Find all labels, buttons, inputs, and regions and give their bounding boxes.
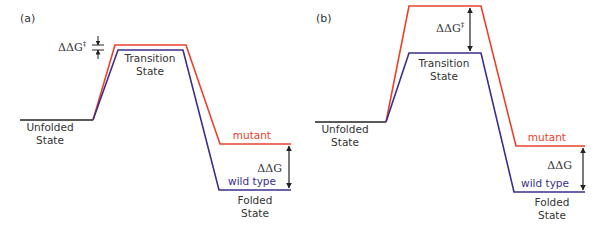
unfolded-state-label-a-2: State — [36, 134, 64, 146]
folded-state-label-a-2: State — [241, 207, 269, 219]
panel-b: (b) ΔΔG‡ Transition State Unfolded State… — [315, 6, 585, 221]
panel-a-label: (a) — [20, 12, 35, 25]
panel-b-label: (b) — [316, 12, 332, 25]
unfolded-state-label-b-2: State — [331, 136, 359, 148]
energy-diagram-figure: (a) ΔΔG‡ Transition State Unfolded State… — [0, 0, 603, 234]
mutant-energy-path-b — [386, 6, 585, 146]
mutant-label-b: mutant — [528, 131, 566, 143]
folded-state-label-b-2: State — [538, 209, 566, 221]
wildtype-label-a: wild type — [228, 175, 276, 187]
mutant-label-a: mutant — [233, 129, 271, 141]
wildtype-label-b: wild type — [521, 177, 569, 189]
transition-state-label-b: Transition — [418, 57, 470, 69]
ddg-ts-label-a: ΔΔG‡ — [58, 40, 87, 54]
folded-state-label-b: Folded — [535, 196, 570, 208]
transition-state-label-b-2: State — [430, 70, 458, 82]
ddg-ts-label-b: ΔΔG‡ — [436, 21, 465, 35]
unfolded-state-label-a: Unfolded — [26, 121, 73, 133]
ddg-label-b: ΔΔG — [547, 159, 572, 172]
transition-state-label-a: Transition — [124, 52, 176, 64]
ddg-label-a: ΔΔG — [257, 162, 282, 175]
ddg-ts-marker-a — [92, 36, 104, 59]
folded-state-label-a: Folded — [238, 194, 273, 206]
unfolded-state-label-b: Unfolded — [321, 123, 368, 135]
panel-a: (a) ΔΔG‡ Transition State Unfolded State… — [20, 12, 291, 219]
transition-state-label-a-2: State — [136, 65, 164, 77]
